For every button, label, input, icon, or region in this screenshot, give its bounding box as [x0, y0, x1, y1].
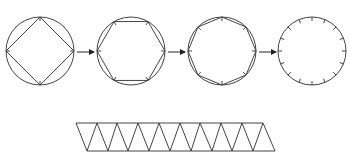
- radius-tick: [288, 72, 291, 75]
- radius-tick: [333, 27, 336, 30]
- radius-tick: [299, 20, 301, 24]
- radius-tick: [281, 62, 285, 64]
- radius-tick: [146, 77, 148, 80]
- radius-tick: [281, 38, 285, 40]
- radius-tick: [114, 22, 116, 25]
- radius-tick: [146, 22, 148, 25]
- diagram-stage: [0, 0, 350, 165]
- radius-tick: [288, 27, 291, 30]
- radius-tick: [323, 79, 325, 83]
- radius-tick: [340, 62, 344, 64]
- radius-tick: [340, 38, 344, 40]
- radius-tick: [299, 79, 301, 83]
- radius-tick: [114, 77, 116, 80]
- polygon-to-circle-diagram: [0, 0, 350, 165]
- radius-tick: [243, 27, 246, 30]
- radius-tick: [333, 72, 336, 75]
- circle-outline: [97, 17, 165, 85]
- circle-octagon: [188, 17, 256, 85]
- radius-tick: [243, 72, 246, 75]
- radius-tick: [323, 20, 325, 24]
- radius-tick: [198, 72, 201, 75]
- circle-outline: [6, 17, 74, 85]
- circle-hexagon: [97, 17, 165, 85]
- circle-square: [6, 17, 74, 85]
- inscribed-polygon-sequence: [6, 17, 346, 85]
- triangle-strip-rearrangement: [76, 123, 275, 151]
- radius-tick: [198, 27, 201, 30]
- strip-zigzag: [76, 123, 275, 151]
- inscribed-polygon: [97, 22, 165, 81]
- circle-ticks: [278, 17, 346, 85]
